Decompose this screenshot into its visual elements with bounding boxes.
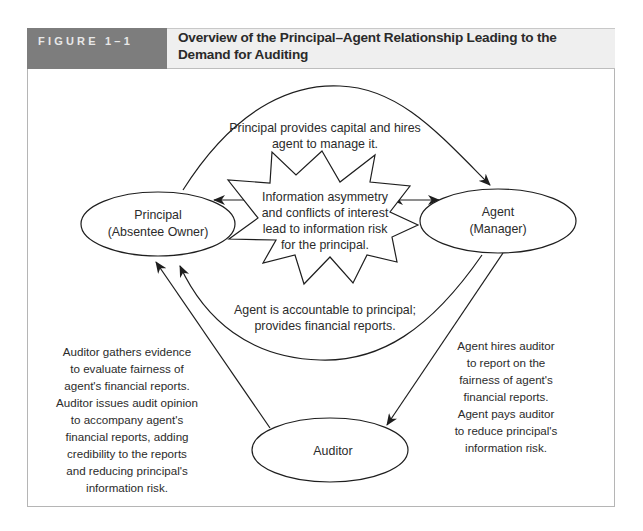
- principal-agent-diagram: Principal (Absentee Owner) Agent (Manage…: [0, 0, 643, 531]
- principal-sublabel: (Absentee Owner): [108, 225, 209, 239]
- starburst-text-line: and conflicts of interest: [262, 206, 389, 220]
- agent-to-auditor-note: financial reports.: [463, 390, 548, 403]
- starburst-text-line: for the principal.: [281, 238, 369, 252]
- auditor-to-principal-note: financial reports, adding: [65, 430, 188, 443]
- agent-to-auditor-note: Agent hires auditor: [457, 339, 554, 352]
- agent-to-principal-label: Agent is accountable to principal;: [234, 303, 416, 317]
- principal-label: Principal: [134, 208, 182, 222]
- auditor-to-principal-note: Auditor issues audit opinion: [56, 396, 198, 409]
- agent-node: [420, 189, 576, 253]
- agent-to-auditor-note: information risk.: [465, 441, 547, 454]
- agent-to-principal-label: provides financial reports.: [254, 319, 395, 333]
- agent-to-auditor-note: Agent pays auditor: [458, 407, 555, 420]
- auditor-to-principal-note: information risk.: [86, 481, 168, 494]
- auditor-label: Auditor: [313, 444, 352, 458]
- agent-to-auditor-note: fairness of agent's: [459, 373, 553, 386]
- agent-sublabel: (Manager): [469, 222, 526, 236]
- principal-to-agent-label: agent to manage it.: [272, 137, 378, 151]
- auditor-to-principal-note: to accompany agent's: [71, 413, 184, 426]
- principal-node: [81, 192, 235, 256]
- auditor-to-principal-note: Auditor gathers evidence: [63, 345, 191, 358]
- principal-to-agent-label: Principal provides capital and hires: [229, 121, 420, 135]
- auditor-to-principal-note: to evaluate fairness of: [70, 362, 184, 375]
- auditor-to-principal-note: credibility to the reports: [67, 447, 187, 460]
- auditor-to-principal-note: agent's financial reports.: [64, 379, 189, 392]
- auditor-to-principal-note: and reducing principal's: [66, 464, 188, 477]
- agent-to-auditor-note: to report on the: [467, 356, 546, 369]
- starburst-text-line: Information asymmetry: [262, 190, 389, 204]
- agent-to-auditor-note: to reduce principal's: [455, 424, 558, 437]
- starburst-text-line: lead to information risk: [263, 222, 388, 236]
- agent-label: Agent: [482, 205, 515, 219]
